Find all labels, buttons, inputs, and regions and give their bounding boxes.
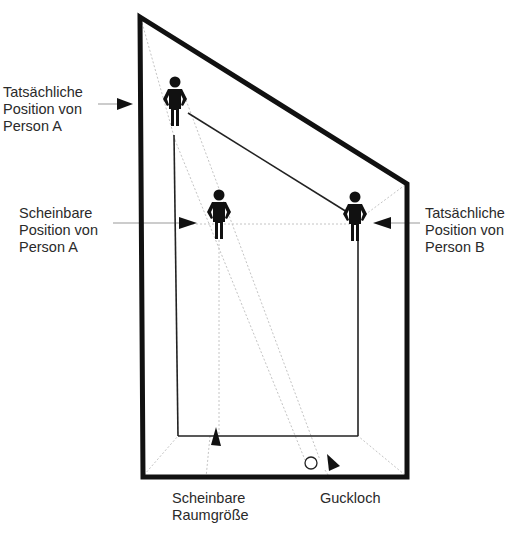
label-line: Guckloch [320,490,380,507]
label-apparent-position-a: Scheinbare Position von Person A [19,205,98,256]
person-a-actual-icon [163,77,187,127]
ames-room-diagram [0,0,522,537]
peephole-circle-icon [305,457,317,469]
label-line: Scheinbare [19,205,98,222]
label-line: Tatsächliche [425,205,505,222]
label-peephole: Guckloch [320,490,380,507]
label-line: Person A [19,239,98,256]
arrow-up-left-icon [327,454,340,471]
outer-room-outline [140,17,407,477]
arrow-right-icon [117,98,133,110]
label-line: Position von [425,222,505,239]
label-line: Scheinbare [172,490,249,507]
arrow-right-icon [179,217,197,229]
person-b-actual-icon [343,192,367,242]
label-line: Tatsächliche [3,84,83,101]
perspective-guide-lines [141,19,405,478]
person-a-apparent-icon [207,190,231,240]
label-actual-position-b: Tatsächliche Position von Person B [425,205,505,256]
label-line: Position von [19,222,98,239]
label-line: Person A [3,118,83,135]
label-line: Raumgröße [172,507,249,524]
arrow-left-icon [373,217,391,229]
label-line: Position von [3,101,83,118]
label-apparent-room-size: Scheinbare Raumgröße [172,490,249,524]
label-line: Person B [425,239,505,256]
label-actual-position-a: Tatsächliche Position von Person A [3,84,83,135]
inner-room-outline [174,113,358,436]
